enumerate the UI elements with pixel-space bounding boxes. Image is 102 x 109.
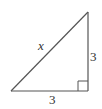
triangle-diagram: x 3 3 <box>0 0 102 109</box>
right-angle-marker <box>78 81 88 91</box>
hypotenuse-label: x <box>37 38 44 53</box>
vertical-leg-label: 3 <box>90 49 97 64</box>
triangle <box>11 12 88 91</box>
horizontal-leg-label: 3 <box>49 92 56 107</box>
hypotenuse-line <box>11 12 88 91</box>
